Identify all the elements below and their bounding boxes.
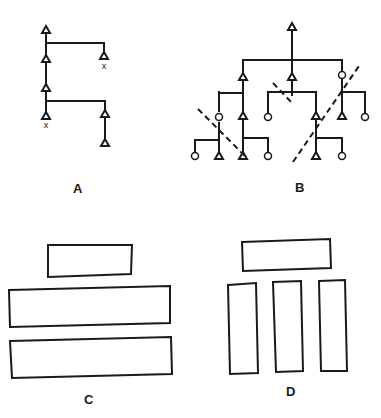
- panel-label-d: D: [286, 384, 295, 399]
- panel-label-b: B: [295, 180, 304, 195]
- circle-node-icon: [362, 114, 369, 121]
- triangle-node-icon: [312, 112, 320, 119]
- triangle-node-icon: [239, 112, 247, 119]
- circle-node-icon: [265, 114, 272, 121]
- triangle-node-icon: [42, 112, 50, 119]
- circle-node-icon: [265, 153, 272, 160]
- figure-canvas: x x: [0, 0, 381, 418]
- triangle-node-icon: [338, 112, 346, 119]
- triangle-node-icon: [100, 52, 108, 59]
- panel-label-a: A: [73, 181, 82, 196]
- triangle-node-icon: [42, 84, 50, 91]
- triangle-node-icon: [312, 152, 320, 159]
- circle-node-icon: [339, 153, 346, 160]
- diagram-b-cut-lines: [198, 66, 359, 162]
- circle-node-icon: [339, 72, 346, 79]
- triangle-node-icon: [42, 26, 50, 33]
- panel-label-c: C: [84, 392, 93, 407]
- diagram-d: [228, 239, 347, 374]
- triangle-node-icon: [101, 139, 109, 146]
- diagram-c: [9, 245, 172, 378]
- circle-node-icon: [216, 114, 223, 121]
- diagram-a: [42, 26, 109, 146]
- x-marker-a2: x: [44, 120, 49, 130]
- triangle-node-icon: [215, 152, 223, 159]
- triangle-node-icon: [288, 73, 296, 80]
- triangle-node-icon: [42, 55, 50, 62]
- triangle-node-icon: [288, 23, 296, 30]
- x-marker-a1: x: [102, 61, 107, 71]
- triangle-node-icon: [101, 110, 109, 117]
- circle-node-icon: [192, 153, 199, 160]
- triangle-node-icon: [239, 73, 247, 80]
